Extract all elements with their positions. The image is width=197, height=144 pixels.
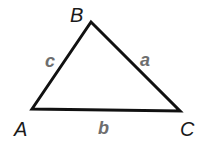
vertex-label-b: B [70, 4, 83, 26]
vertex-label-a: A [13, 118, 27, 140]
side-label-c: c [45, 51, 55, 71]
vertex-label-c: C [180, 118, 195, 140]
side-label-b: b [98, 118, 109, 138]
triangle-diagram: A B C a b c [0, 0, 197, 144]
side-label-a: a [140, 50, 150, 70]
